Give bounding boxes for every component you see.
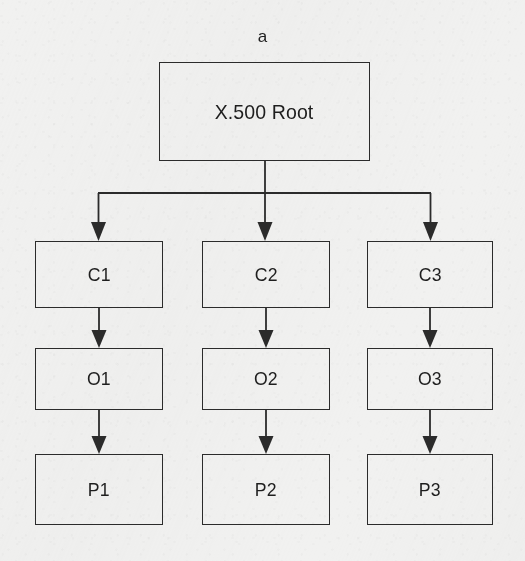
node-p1[interactable]: P1 <box>35 454 163 525</box>
node-o1[interactable]: O1 <box>35 348 163 410</box>
node-x500-root[interactable]: X.500 Root <box>159 62 370 161</box>
edge-c2-to-o2-arrowhead <box>259 330 274 348</box>
edge-o1-to-p1-arrowhead <box>92 436 107 454</box>
node-c2[interactable]: C2 <box>202 241 330 308</box>
edge-c1-to-o1-arrowhead <box>92 330 107 348</box>
node-label-o1: O1 <box>87 368 111 390</box>
node-o2[interactable]: O2 <box>202 348 330 410</box>
node-o3[interactable]: O3 <box>367 348 493 410</box>
edge-o2-to-p2-arrowhead <box>259 436 274 454</box>
edge-o3-to-p3-arrowhead <box>423 436 438 454</box>
node-p2[interactable]: P2 <box>202 454 330 525</box>
edge-c3-to-o3-arrowhead <box>423 330 438 348</box>
node-label-p2: P2 <box>255 479 277 501</box>
edge-branch-to-c2-arrowhead <box>258 222 273 241</box>
node-c3[interactable]: C3 <box>367 241 493 308</box>
figure-caption-label: a <box>0 27 525 47</box>
node-label-o2: O2 <box>254 368 278 390</box>
x500-directory-tree-figure: a X.500 Root <box>0 0 525 561</box>
node-label-c1: C1 <box>88 264 111 286</box>
edge-branch-to-c1-arrowhead <box>91 222 106 241</box>
node-label-p1: P1 <box>88 479 110 501</box>
edge-branch-to-c3-arrowhead <box>423 222 438 241</box>
node-label-c2: C2 <box>255 264 278 286</box>
node-label-o3: O3 <box>418 368 442 390</box>
node-c1[interactable]: C1 <box>35 241 163 308</box>
node-p3[interactable]: P3 <box>367 454 493 525</box>
node-label-c3: C3 <box>419 264 442 286</box>
node-label-p3: P3 <box>419 479 441 501</box>
node-label-root: X.500 Root <box>215 101 314 123</box>
